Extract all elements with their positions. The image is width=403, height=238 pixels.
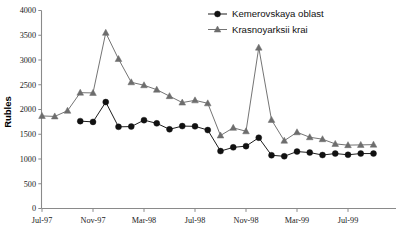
data-point-marker (230, 144, 236, 150)
y-tick-label: 3500 (20, 31, 36, 40)
data-point-marker (103, 99, 109, 105)
y-tick-label: 0 (32, 204, 36, 213)
y-tick-label: 4000 (20, 6, 36, 15)
data-point-marker (294, 149, 300, 155)
legend-label: Kemerovskaya oblast (232, 8, 324, 19)
data-point-marker (256, 135, 262, 141)
x-tick-label: Jul-98 (185, 216, 205, 225)
chart-background (0, 0, 403, 238)
data-point-marker (269, 152, 275, 158)
x-tick-label: Nov-97 (80, 216, 105, 225)
x-tick-label: Jul-99 (338, 216, 358, 225)
x-tick-label: Jul-97 (32, 216, 52, 225)
y-tick-label: 1000 (20, 155, 36, 164)
chart-container: 05001000150020002500300035004000 Jul-97N… (0, 0, 403, 238)
data-point-marker (218, 148, 224, 154)
x-tick-label: Mar-99 (285, 216, 309, 225)
data-point-marker (167, 126, 173, 132)
data-point-marker (332, 151, 338, 157)
data-point-marker (345, 152, 351, 158)
data-point-marker (281, 153, 287, 159)
data-point-marker (128, 124, 134, 130)
data-point-marker (205, 127, 211, 133)
data-point-marker (192, 123, 198, 129)
data-point-marker (90, 119, 96, 125)
data-point-marker (320, 152, 326, 158)
data-point-marker (141, 117, 147, 123)
data-point-marker (358, 151, 364, 157)
y-tick-label: 2500 (20, 81, 36, 90)
y-tick-label: 500 (24, 180, 36, 189)
y-tick-label: 3000 (20, 56, 36, 65)
data-point-marker (116, 124, 122, 130)
y-tick-label: 2000 (20, 105, 36, 114)
x-tick-label: Mar-98 (132, 216, 156, 225)
data-point-marker (154, 120, 160, 126)
data-point-marker (77, 118, 83, 124)
y-tick-label: 1500 (20, 130, 36, 139)
data-point-marker (243, 143, 249, 149)
legend-label: Krasnoyarksii krai (232, 24, 308, 35)
data-point-marker (215, 11, 221, 17)
line-chart: 05001000150020002500300035004000 Jul-97N… (0, 0, 403, 238)
data-point-marker (307, 150, 313, 156)
data-point-marker (179, 123, 185, 129)
data-point-marker (371, 151, 377, 157)
x-tick-label: Nov-98 (233, 216, 258, 225)
y-axis-title: Rubles (2, 96, 13, 128)
